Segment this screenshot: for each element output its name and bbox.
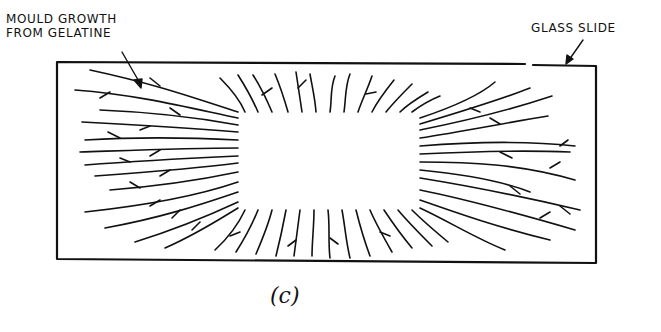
mould-hyphae-left	[75, 70, 238, 248]
mould-hyphae-bottom	[215, 210, 448, 258]
mould-hyphae-right	[420, 82, 580, 250]
glass-slide-outline	[57, 62, 596, 263]
figure-caption: (c)	[270, 283, 300, 308]
mould-on-glass-slide-diagram	[0, 0, 661, 332]
mould-hyphae-top	[220, 72, 440, 112]
mould-growth-arrow-icon	[122, 52, 142, 88]
glass-slide-arrow-icon	[566, 40, 583, 64]
